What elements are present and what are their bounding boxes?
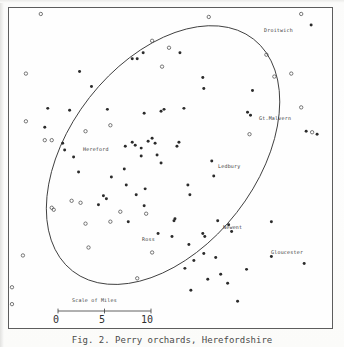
site-marker-open xyxy=(273,75,276,78)
site-marker-filled xyxy=(68,109,71,112)
site-marker-filled xyxy=(236,300,239,303)
site-marker-open xyxy=(119,210,122,213)
site-marker-open xyxy=(50,138,53,141)
scale-bar: Scale of Miles 0 5 10 xyxy=(55,297,175,339)
site-marker-filled xyxy=(172,219,175,222)
place-label-gloucester: Gloucester xyxy=(271,250,303,255)
site-marker-open xyxy=(136,277,139,280)
site-marker-filled xyxy=(78,70,81,73)
site-marker-filled xyxy=(63,149,66,152)
site-marker-open xyxy=(50,206,53,209)
site-marker-filled xyxy=(151,137,154,140)
site-marker-filled xyxy=(214,256,217,259)
site-marker-filled xyxy=(131,141,134,144)
site-marker-open xyxy=(207,15,210,18)
site-marker-filled xyxy=(136,57,139,60)
site-marker-open xyxy=(52,208,55,211)
site-marker-filled xyxy=(144,187,147,190)
place-label-ledbury: Ledbury xyxy=(218,164,240,169)
site-marker-filled xyxy=(183,267,186,270)
site-marker-filled xyxy=(182,107,185,110)
site-marker-filled xyxy=(203,235,206,238)
site-marker-filled xyxy=(106,108,109,111)
site-marker-open xyxy=(24,72,27,75)
site-marker-filled xyxy=(210,160,213,163)
site-marker-open xyxy=(300,106,303,109)
site-marker-filled xyxy=(163,108,166,111)
site-marker-filled xyxy=(140,155,143,158)
map-drawing-canvas xyxy=(9,8,332,328)
site-marker-open xyxy=(160,65,163,68)
page-edge-top xyxy=(0,0,344,3)
site-marker-filled xyxy=(142,51,145,54)
site-marker-filled xyxy=(61,142,64,145)
site-marker-filled xyxy=(316,133,319,136)
site-marker-filled xyxy=(123,168,126,171)
site-marker-open xyxy=(150,39,153,42)
site-marker-filled xyxy=(246,111,249,114)
place-label-newent: Newent xyxy=(223,225,242,230)
site-marker-filled xyxy=(135,193,138,196)
site-marker-open xyxy=(39,12,42,15)
site-marker-open xyxy=(300,12,303,15)
site-marker-filled xyxy=(72,156,75,159)
site-marker-open xyxy=(10,302,13,305)
site-marker-filled xyxy=(110,175,113,178)
site-marker-filled xyxy=(125,183,128,186)
site-marker-open xyxy=(150,251,153,254)
site-marker-filled xyxy=(46,107,49,110)
site-marker-filled xyxy=(143,112,146,115)
site-marker-filled xyxy=(201,76,204,79)
site-marker-filled xyxy=(226,282,229,285)
site-marker-filled xyxy=(201,232,204,235)
site-marker-filled xyxy=(171,235,174,238)
site-marker-filled xyxy=(202,87,205,90)
site-marker-filled xyxy=(249,114,252,117)
site-marker-filled xyxy=(270,255,273,258)
site-marker-filled xyxy=(178,51,181,54)
figure-root: DroitwichGt.MalvernHerefordLedburyNewent… xyxy=(0,0,344,347)
site-marker-filled xyxy=(160,110,163,113)
site-marker-open xyxy=(79,201,82,204)
site-marker-filled xyxy=(305,130,308,133)
site-marker-open xyxy=(87,246,90,249)
site-marker-filled xyxy=(43,126,46,129)
site-marker-open xyxy=(43,138,46,141)
site-marker-open xyxy=(10,286,13,289)
site-marker-filled xyxy=(105,197,108,200)
site-marker-filled xyxy=(102,194,105,197)
site-marker-open xyxy=(310,131,313,134)
site-marker-filled xyxy=(154,142,157,145)
site-marker-open xyxy=(21,254,24,257)
site-marker-open xyxy=(24,120,27,123)
map-frame: DroitwichGt.MalvernHerefordLedburyNewent… xyxy=(8,7,333,329)
site-marker-open xyxy=(84,222,87,225)
site-marker-filled xyxy=(303,262,306,265)
study-area-boundary xyxy=(9,8,327,328)
site-marker-filled xyxy=(212,174,215,177)
site-marker-open xyxy=(70,199,73,202)
place-label-droitwich: Droitwich xyxy=(264,28,293,33)
site-marker-filled xyxy=(230,230,233,233)
scale-tick-10: 10 xyxy=(141,314,153,325)
site-marker-filled xyxy=(187,243,190,246)
site-marker-open xyxy=(109,124,112,127)
site-marker-filled xyxy=(127,220,130,223)
place-label-gt-malvern: Gt.Malvern xyxy=(259,116,291,121)
site-marker-filled xyxy=(202,252,205,255)
site-marker-filled xyxy=(124,145,127,148)
site-marker-filled xyxy=(216,219,219,222)
site-marker-filled xyxy=(160,162,163,165)
site-marker-open xyxy=(167,46,170,49)
site-marker-filled xyxy=(310,23,313,26)
site-marker-filled xyxy=(97,203,100,206)
figure-caption: Fig. 2. Perry orchards, Herefordshire xyxy=(0,335,344,347)
site-marker-filled xyxy=(188,193,191,196)
site-marker-filled xyxy=(157,232,160,235)
scale-tick-5: 5 xyxy=(99,314,105,325)
site-marker-filled xyxy=(270,220,273,223)
site-marker-filled xyxy=(245,268,248,271)
site-marker-filled xyxy=(177,141,180,144)
site-marker-open xyxy=(290,72,293,75)
site-marker-filled xyxy=(77,170,80,173)
